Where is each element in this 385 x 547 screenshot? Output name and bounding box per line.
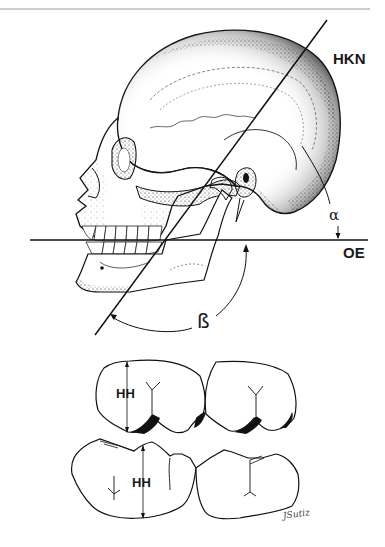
hh-lower-label: HH [132,476,151,489]
alpha-angle-label: α [329,208,339,223]
lower-dentition [86,242,162,254]
oe-label: OE [343,245,365,260]
hh-upper-label: HH [116,387,135,400]
beta-arc-right [216,248,246,316]
styloid-process [236,198,244,222]
lower-molar-2 [196,450,299,519]
figure-canvas: HKN OE α ß HH HH JSutiz [0,0,385,547]
alpha-arrow-head [336,233,341,239]
beta-angle-label: ß [197,311,210,331]
beta-arrow-head-right [243,244,249,252]
skull-and-teeth-illustration [0,0,385,547]
upper-dentition [82,226,162,241]
beta-arc [112,317,192,332]
skull-drawing [76,30,340,292]
hkn-label: HKN [333,51,366,66]
lower-molars [72,439,299,519]
upper-molar-2 [205,361,296,431]
